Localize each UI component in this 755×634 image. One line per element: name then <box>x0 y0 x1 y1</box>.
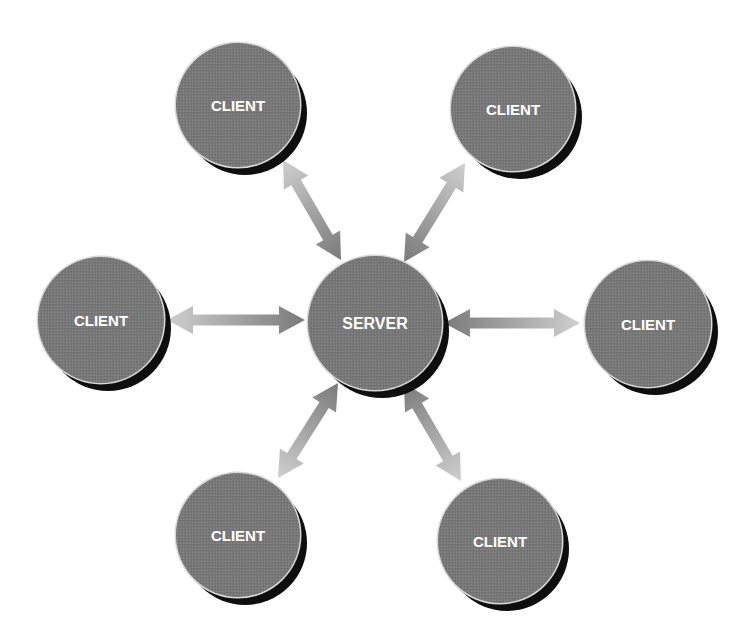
node-label: CLIENT <box>473 533 527 550</box>
bidirectional-arrow-icon <box>278 383 338 478</box>
bidirectional-arrow-icon <box>444 309 580 337</box>
bidirectional-arrow-icon <box>404 383 461 481</box>
client-top-right: CLIENT <box>450 46 583 180</box>
client-left: CLIENT <box>37 256 172 392</box>
node-label: CLIENT <box>621 316 675 333</box>
node-label: CLIENT <box>211 527 265 544</box>
node-label: CLIENT <box>211 97 265 114</box>
client-bottom-right: CLIENT <box>437 478 570 612</box>
server-node: SERVER <box>307 255 450 399</box>
node-label: SERVER <box>342 315 408 332</box>
client-right: CLIENT <box>584 260 719 396</box>
bidirectional-arrow-icon <box>167 306 305 334</box>
client-server-diagram: CLIENTCLIENTCLIENTCLIENTCLIENTCLIENTSERV… <box>0 0 755 634</box>
client-top-left: CLIENT <box>175 42 308 176</box>
bidirectional-arrow-icon <box>404 163 465 262</box>
node-label: CLIENT <box>74 312 128 329</box>
nodes-layer: CLIENTCLIENTCLIENTCLIENTCLIENTCLIENTSERV… <box>37 42 719 612</box>
client-bottom-left: CLIENT <box>175 472 308 606</box>
bidirectional-arrow-icon <box>283 160 341 260</box>
node-label: CLIENT <box>486 101 540 118</box>
